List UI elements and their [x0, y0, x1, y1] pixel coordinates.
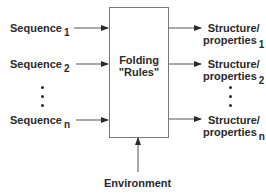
input-subscript: 2	[64, 63, 70, 74]
ellipsis-dot	[41, 95, 44, 98]
output-subscript: 2	[259, 75, 265, 86]
input-sequence-2: Sequence2	[10, 58, 70, 75]
output-subscript: n	[259, 131, 265, 142]
output-structure-2: Structure/ properties2	[203, 58, 264, 87]
input-subscript: n	[64, 119, 70, 130]
output-subscript: 1	[259, 39, 265, 50]
ellipsis-dot	[229, 86, 232, 89]
ellipsis-dot	[229, 95, 232, 98]
input-subscript: 1	[64, 27, 70, 38]
output-line-1: Structure/	[203, 22, 264, 34]
output-line-2: properties	[203, 70, 257, 82]
output-line-2: properties	[203, 126, 257, 138]
process-line-1: Folding	[110, 54, 168, 66]
folding-rules-label: Folding "Rules"	[110, 54, 168, 78]
input-label: Sequence	[10, 58, 62, 70]
input-label: Sequence	[10, 22, 62, 34]
environment-label: Environment	[104, 177, 171, 189]
ellipsis-dot	[41, 86, 44, 89]
ellipsis-dot	[229, 104, 232, 107]
output-structure-n: Structure/ propertiesn	[203, 114, 265, 143]
ellipsis-dot	[41, 104, 44, 107]
output-line-1: Structure/	[203, 114, 265, 126]
input-label: Sequence	[10, 114, 62, 126]
input-sequence-1: Sequence1	[10, 22, 70, 39]
output-line-1: Structure/	[203, 58, 264, 70]
process-line-2: "Rules"	[110, 66, 168, 78]
folding-rules-box: Folding "Rules"	[109, 7, 169, 138]
output-line-2: properties	[203, 34, 257, 46]
output-structure-1: Structure/ properties1	[203, 22, 264, 51]
input-sequence-n: Sequencen	[10, 114, 70, 131]
